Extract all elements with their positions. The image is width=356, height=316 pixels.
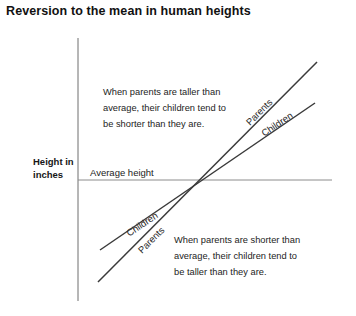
annotation-line: average, their children tend to [174, 249, 300, 265]
annotation-shorter-parents: When parents are shorter than average, t… [174, 233, 300, 280]
reversion-chart-figure: Reversion to the mean in human heights H… [0, 0, 356, 316]
annotation-line: be taller than they are. [174, 265, 300, 281]
y-axis-label: Height in inches [33, 155, 74, 181]
annotation-line: When parents are shorter than [174, 233, 300, 249]
annotation-taller-parents: When parents are taller than average, th… [103, 85, 226, 132]
average-height-label: Average height [90, 167, 154, 178]
annotation-line: When parents are taller than [103, 85, 226, 101]
y-axis-label-line2: inches [33, 168, 74, 181]
y-axis-label-line1: Height in [33, 155, 74, 168]
annotation-line: average, their children tend to [103, 101, 226, 117]
annotation-line: be shorter than they are. [103, 117, 226, 133]
